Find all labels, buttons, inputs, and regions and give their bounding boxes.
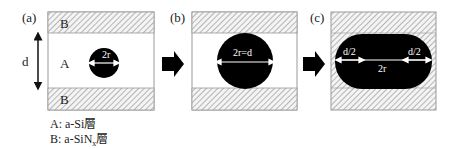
panel-a: (a) B A B 2r d [22,10,154,110]
panel-b: (b) 2r=d [170,10,297,110]
nanorod-stadium [335,34,432,89]
right-half-label: d/2 [408,46,421,57]
legend-a: A: a-Si層 [50,117,96,131]
legend: A: a-Si層 B: a-SiNx層 [50,117,108,148]
panel-c: (c) d/2 d/2 2r [310,10,436,110]
dimension-d-label: d [22,54,29,69]
panel-b-label: (b) [170,10,185,25]
legend-b: B: a-SiNx層 [50,132,108,148]
circle-b-label: 2r=d [233,47,252,58]
transition-arrow-1 [162,51,184,77]
nanostructure-diagram: (a) B A B 2r d (b) 2r=d (c) d/2 d/2 [0,0,452,149]
nanodot-medium [217,33,273,89]
layer-b-bottom-label: B [60,92,69,107]
panel-c-label: (c) [310,10,324,25]
layer-b-top-label: B [60,16,69,31]
left-half-label: d/2 [343,46,356,57]
layer-a-label: A [60,56,70,71]
center-label: 2r [378,63,387,74]
panel-a-label: (a) [22,10,36,25]
circle-a-label: 2r [102,49,111,60]
transition-arrow-2 [303,51,325,77]
